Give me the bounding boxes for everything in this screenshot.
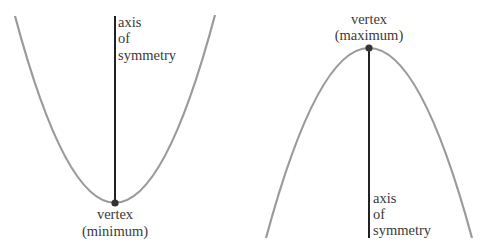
vertex-label-line-1: vertex <box>97 206 134 222</box>
axis-label-line-1: axis <box>118 14 142 30</box>
vertex-label-line-1: vertex <box>351 11 388 27</box>
parabola-maximum-diagram: vertex (maximum) axis of symmetry <box>266 11 472 238</box>
vertex-maximum-dot <box>365 44 372 51</box>
axis-label-line-2: of <box>373 206 385 222</box>
parabola-minimum-diagram: axis of symmetry vertex (minimum) <box>15 14 215 240</box>
axis-label-line-3: symmetry <box>373 222 432 238</box>
axis-label-line-3: symmetry <box>118 47 177 63</box>
vertex-label-line-2: (maximum) <box>335 27 404 44</box>
axis-label-line-2: of <box>118 30 130 46</box>
vertex-label-line-2: (minimum) <box>82 223 148 240</box>
axis-label-line-1: axis <box>373 190 397 206</box>
parabola-diagrams: axis of symmetry vertex (minimum) vertex… <box>0 0 489 251</box>
